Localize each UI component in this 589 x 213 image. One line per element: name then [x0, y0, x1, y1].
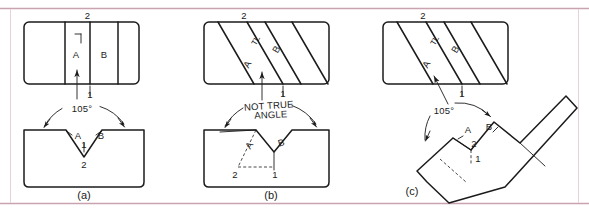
- figure-a-caption: (a): [77, 189, 90, 201]
- figure-b-top-point-2: 2: [241, 10, 246, 21]
- figure-c-dim-arc-right: [455, 103, 490, 116]
- figure-c-top-edge-1: [397, 22, 433, 84]
- figure-c-angle-dimension: 105°: [434, 105, 454, 116]
- figure-a-top-face-b: B: [101, 49, 107, 60]
- figure-b-caption: (b): [264, 189, 277, 201]
- figure-b-front-outline: [204, 130, 329, 187]
- figure-c-top-view: 2 1 TL A B: [383, 10, 508, 104]
- figure-a-angle-dimension: 105°: [72, 103, 92, 114]
- figure-b-dim-text-line2: ANGLE: [254, 108, 288, 121]
- figure-b: 2 1 TL A B NOT TRUE ANGLE A B 2 1 (b): [204, 10, 329, 201]
- figure-c-top-face-b: B: [449, 44, 462, 55]
- figure-b-dim-arrow-right: [310, 118, 317, 127]
- figure-a-top-face-a: A: [73, 49, 80, 60]
- figure-c-dim-arrow-left: [426, 131, 431, 141]
- figure-a-top-point-1: 1: [87, 89, 92, 100]
- figure-c-face-a: A: [465, 124, 472, 135]
- figure-c-face-b: B: [486, 121, 492, 132]
- figure-b-top-edge-4: [292, 22, 328, 84]
- figure-c-top-point-2: 2: [420, 10, 425, 21]
- engineering-drawing-figure: 2 1 A B 105° A B 1 2 (a): [0, 0, 589, 213]
- figure-a-front-point-2: 2: [81, 159, 86, 170]
- figure-a-top-outline: [24, 22, 139, 84]
- figure-c-top-edge-4: [471, 22, 507, 84]
- figure-c-leader-a: [458, 136, 463, 139]
- figure-a-dim-arrow-right: [118, 118, 125, 127]
- figure-c-top-face-a: A: [420, 58, 433, 70]
- figure-a-front-point-1: 1: [81, 139, 86, 150]
- figure-b-top-face-b: B: [270, 44, 283, 55]
- figure-b-front-face-a: A: [243, 139, 256, 151]
- figure-b-front-view: NOT TRUE ANGLE A B 2 1: [204, 98, 329, 187]
- figure-c-caption: (c): [406, 185, 419, 197]
- figure-a-front-face-b: B: [98, 130, 104, 141]
- figure-c-auxiliary-view: 105° A B 2 1: [417, 96, 577, 203]
- figure-b-top-view: 2 1 TL A B: [204, 10, 329, 100]
- figure-a-top-point-2: 2: [85, 10, 90, 21]
- figure-a: 2 1 A B 105° A B 1 2 (a): [24, 10, 144, 201]
- figure-c-dim-arrow-right: [482, 110, 491, 117]
- figure-c-top-edge-3: [444, 22, 480, 84]
- figure-b-front-point-2: 2: [232, 169, 237, 180]
- figure-c-top-point-1: 1: [459, 88, 464, 99]
- figure-b-top-edge-3: [265, 22, 301, 84]
- figure-c-leader-b: [493, 127, 498, 132]
- figure-c-point-1: 1: [475, 153, 480, 164]
- figure-b-top-edge-1: [218, 22, 254, 84]
- figure-b-top-point-1: 1: [280, 88, 285, 99]
- figure-b-dim-arrow-left: [225, 119, 231, 128]
- figure-a-front-view: 105° A B 1 2: [24, 103, 144, 187]
- figure-c-view-arrow: [434, 76, 448, 104]
- figure-c-groove-face-a: [453, 138, 471, 150]
- figure-b-top-face-a: A: [241, 58, 254, 70]
- figure-a-dim-arrow-left: [44, 119, 50, 128]
- figure-c: 2 1 TL A B 105° A B 2 1: [383, 10, 577, 203]
- figure-c-point-2: 2: [471, 138, 476, 149]
- figure-b-front-point-1: 1: [272, 169, 277, 180]
- figure-a-top-view: 2 1 A B: [24, 10, 139, 100]
- figure-c-hidden-div-1: [440, 159, 466, 182]
